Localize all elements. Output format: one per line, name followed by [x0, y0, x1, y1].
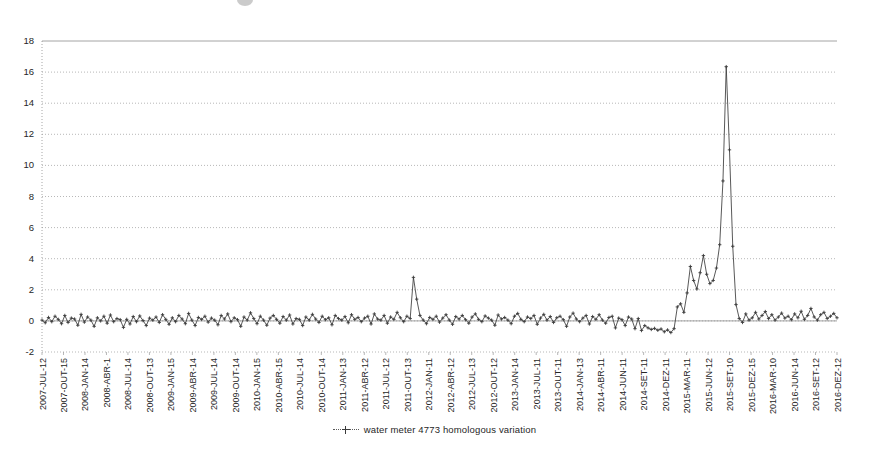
- chart-legend: water meter 4773 homologous variation: [0, 424, 869, 435]
- x-tick-label: 2011-JAN-13: [338, 358, 348, 410]
- data-point-marker: [588, 322, 591, 325]
- y-gridlines: [42, 41, 837, 352]
- data-point-marker: [705, 273, 708, 276]
- x-tick-label: 2007-OUT-15: [59, 358, 69, 413]
- data-point-marker: [734, 303, 737, 306]
- x-tick-label: 2012-JAN-11: [424, 358, 434, 410]
- x-tick-label: 2016-MAR-10: [768, 358, 778, 414]
- x-tick-label: 2014-ABR-11: [596, 358, 606, 412]
- data-point-marker: [682, 311, 685, 314]
- x-tick-label: 2016-JUN-14: [790, 358, 800, 412]
- data-point-marker: [330, 323, 333, 326]
- y-tick-label: 14: [23, 97, 34, 108]
- data-point-marker: [347, 321, 350, 324]
- x-tick-label: 2009-JAN-15: [166, 358, 176, 411]
- data-point-marker: [197, 316, 200, 319]
- data-point-marker: [415, 297, 418, 300]
- x-tick-label: 2014-DEZ-11: [661, 358, 671, 411]
- data-point-marker: [239, 325, 242, 328]
- data-point-marker: [725, 65, 728, 68]
- y-tick-label: 6: [29, 222, 34, 233]
- data-point-marker: [656, 329, 659, 332]
- x-tick-label: 2010-ABR-15: [274, 358, 284, 413]
- data-point-marker: [617, 316, 620, 319]
- data-point-marker: [565, 325, 568, 328]
- data-point-marker: [715, 266, 718, 269]
- data-point-marker: [624, 324, 627, 327]
- x-tick-label: 2009-OUT-14: [231, 358, 241, 413]
- y-tick-label: 16: [23, 66, 34, 77]
- data-point-marker: [689, 265, 692, 268]
- data-point-marker: [607, 316, 610, 319]
- chart-container: -2024681012141618 2007-JUL-122007-OUT-15…: [0, 0, 869, 463]
- data-point-marker: [718, 243, 721, 246]
- data-series-group: [40, 65, 838, 334]
- data-point-marker: [428, 316, 431, 319]
- x-tick-label: 2015-MAR-11: [682, 358, 692, 413]
- data-point-marker: [105, 322, 108, 325]
- data-point-marker: [692, 279, 695, 282]
- x-tick-label: 2016-DEZ-12: [833, 358, 843, 412]
- x-tick-label: 2014-SET-11: [639, 358, 649, 410]
- data-point-marker: [249, 311, 252, 314]
- data-point-marker: [327, 316, 330, 319]
- x-tick-label: 2015-SET-10: [725, 358, 735, 411]
- data-point-marker: [92, 325, 95, 328]
- data-point-marker: [799, 310, 802, 313]
- x-tick-label: 2010-JAN-15: [252, 358, 262, 411]
- data-point-marker: [728, 148, 731, 151]
- x-tick-label: 2013-JUL-11: [532, 358, 542, 409]
- data-point-marker: [412, 276, 415, 279]
- data-point-marker: [301, 324, 304, 327]
- data-point-marker: [685, 291, 688, 294]
- data-point-marker: [695, 287, 698, 290]
- x-tick-label: 2011-OUT-13: [403, 358, 413, 412]
- data-point-marker: [79, 313, 82, 316]
- data-point-marker: [536, 323, 539, 326]
- y-tick-label: 0: [29, 315, 34, 326]
- x-tick-label: 2012-OUT-12: [489, 358, 499, 413]
- data-point-marker: [122, 326, 125, 329]
- y-axis-tick-labels: -2024681012141618: [23, 35, 34, 357]
- y-tick-label: -2: [26, 346, 34, 357]
- x-tick-label: 2009-ABR-14: [188, 358, 198, 413]
- y-tick-label: 10: [23, 159, 34, 170]
- y-tick-label: 2: [29, 284, 34, 295]
- data-point-marker: [650, 328, 653, 331]
- data-point-marker: [702, 254, 705, 257]
- y-tick-label: 4: [29, 253, 34, 264]
- x-tick-label: 2014-JAN-13: [575, 358, 585, 411]
- x-tick-label: 2009-JUL-14: [209, 358, 219, 410]
- data-point-marker: [721, 179, 724, 182]
- data-point-marker: [809, 307, 812, 310]
- data-point-marker: [653, 327, 656, 330]
- data-point-marker: [614, 326, 617, 329]
- x-tick-label: 2016-SET-12: [811, 358, 821, 411]
- x-tick-label: 2014-JUN-11: [618, 358, 628, 411]
- x-tick-label: 2010-JUL-14: [295, 358, 305, 410]
- x-axis-tick-labels: 2007-JUL-122007-OUT-152008-JAN-142008-AB…: [38, 352, 843, 414]
- data-point-marker: [698, 271, 701, 274]
- line-chart-plot: -2024681012141618 2007-JUL-122007-OUT-15…: [0, 0, 869, 420]
- x-tick-label: 2007-JUL-12: [38, 358, 48, 410]
- data-point-marker: [366, 315, 369, 318]
- x-tick-label: 2015-DEZ-15: [747, 358, 757, 412]
- series-line: [42, 67, 837, 333]
- data-point-marker: [744, 312, 747, 315]
- x-tick-label: 2012-JUL-13: [467, 358, 477, 410]
- y-tick-label: 18: [23, 35, 34, 46]
- x-tick-label: 2012-ABR-12: [446, 358, 456, 413]
- data-point-marker: [610, 315, 613, 318]
- x-tick-label: 2013-OUT-11: [553, 358, 563, 412]
- y-tick-label: 12: [23, 128, 34, 139]
- data-point-marker: [73, 317, 76, 320]
- data-point-marker: [109, 313, 112, 316]
- data-point-marker: [731, 245, 734, 248]
- data-point-marker: [187, 312, 190, 315]
- data-point-marker: [63, 314, 66, 317]
- x-tick-label: 2008-JUL-14: [123, 358, 133, 410]
- x-tick-label: 2010-OUT-14: [317, 358, 327, 413]
- x-tick-label: 2011-JUL-12: [381, 358, 391, 409]
- data-point-marker: [633, 327, 636, 330]
- x-tick-label: 2008-JAN-14: [80, 358, 90, 411]
